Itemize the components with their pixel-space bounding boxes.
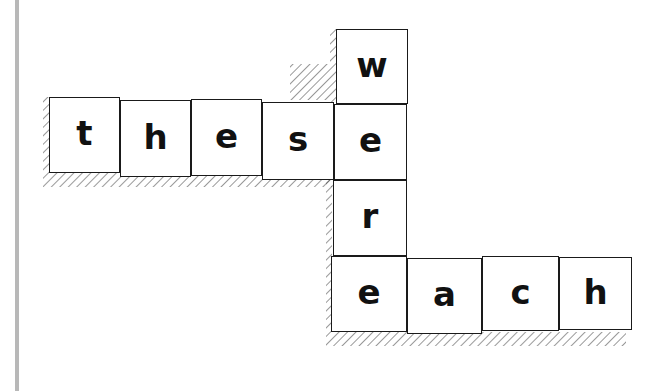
letter-tile-a: a bbox=[407, 258, 482, 334]
tile-letter: e bbox=[215, 119, 238, 153]
letter-tile-e: e bbox=[331, 256, 407, 332]
tile-letter: a bbox=[433, 277, 456, 311]
tile-letter: s bbox=[288, 122, 308, 156]
tile-letter: h bbox=[143, 120, 167, 154]
letter-tile-c: c bbox=[482, 256, 559, 331]
tile-letter: t bbox=[76, 116, 92, 150]
letter-tile-e: e bbox=[334, 104, 407, 180]
letter-tile-e: e bbox=[191, 99, 262, 176]
letter-tile-h: h bbox=[120, 100, 191, 177]
letter-tile-r: r bbox=[333, 180, 407, 256]
tile-letter: e bbox=[359, 123, 382, 157]
tile-letter: e bbox=[357, 275, 380, 309]
tile-letter: w bbox=[356, 48, 387, 82]
tile-letter: r bbox=[362, 199, 379, 233]
letter-tile-h: h bbox=[559, 257, 632, 330]
letter-tile-w: w bbox=[336, 29, 408, 104]
letter-tile-t: t bbox=[49, 97, 120, 173]
tile-letter: h bbox=[583, 275, 607, 309]
tile-letter: c bbox=[510, 275, 530, 309]
letter-tile-s: s bbox=[262, 102, 334, 180]
